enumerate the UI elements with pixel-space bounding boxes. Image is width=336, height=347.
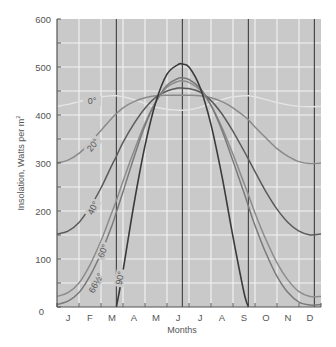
x-tick-label: M [108, 312, 116, 323]
x-tick-label: J [176, 312, 181, 323]
x-tick-label: J [198, 312, 203, 323]
x-tick-label: F [87, 312, 93, 323]
y-tick-label: 0 [39, 306, 44, 317]
x-tick-label: D [307, 312, 314, 323]
x-tick-label: J [66, 312, 71, 323]
x-tick-label: A [131, 312, 138, 323]
y-axis-title: Insolation, Watts per m2 [15, 115, 26, 211]
x-axis-title: Months [167, 325, 197, 335]
y-axis-title-superscript: 2 [15, 115, 21, 119]
y-tick-label: 400 [35, 110, 51, 121]
y-tick-label: 600 [35, 14, 51, 25]
x-tick-label: O [262, 312, 269, 323]
y-tick-label: 300 [35, 158, 51, 169]
insolation-chart: 0°20°40°60°66½°90° 0100200300400500600 J… [0, 0, 336, 347]
curve-label: 0° [88, 96, 97, 106]
x-tick-label: N [285, 312, 292, 323]
y-tick-label: 100 [35, 254, 51, 265]
y-tick-label: 500 [35, 62, 51, 73]
y-axis-title-main: Insolation, Watts per m [16, 119, 26, 211]
x-tick-label: A [219, 312, 226, 323]
x-tick-label: S [241, 312, 247, 323]
y-tick-label: 200 [35, 206, 51, 217]
x-tick-label: M [152, 312, 160, 323]
